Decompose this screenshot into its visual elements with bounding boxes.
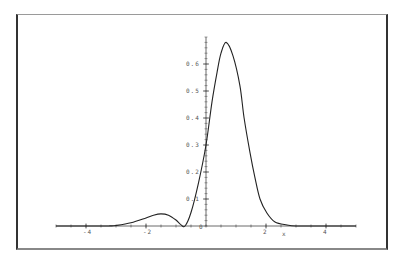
y-tick-label: 0.3 bbox=[186, 141, 200, 148]
x-axis-title: x bbox=[282, 230, 286, 237]
y-tick-label: 0.5 bbox=[186, 87, 200, 94]
x-tick-label: 2 bbox=[263, 228, 268, 235]
x-tick-label: -2 bbox=[143, 228, 152, 235]
y-tick-label: 0.1 bbox=[186, 195, 200, 202]
x-tick-label: -4 bbox=[83, 228, 92, 235]
x-tick-label: 4 bbox=[323, 228, 328, 235]
origin-label: 0 bbox=[199, 223, 204, 230]
y-tick-label: 0.2 bbox=[186, 168, 200, 175]
y-tick-label: 0.6 bbox=[186, 60, 200, 67]
y-tick-label: 0.4 bbox=[186, 114, 200, 121]
y-axis: 0.10.20.30.40.50.6 bbox=[186, 37, 209, 226]
line-chart: -4-224 0.10.20.30.40.50.6 x 0 bbox=[0, 0, 407, 268]
